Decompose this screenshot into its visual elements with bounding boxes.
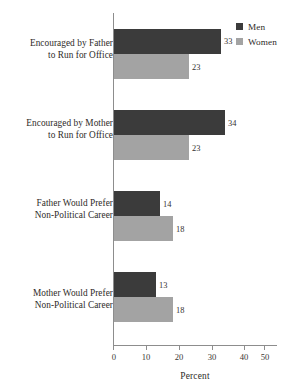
x-tick-40 (244, 346, 245, 350)
category-label-2-line1: Father Would Prefer (37, 198, 113, 208)
category-label-1: Encouraged by Mother to Run for Office (0, 118, 113, 141)
category-label-3: Mother Would Prefer Non-Political Career (0, 288, 113, 311)
bar-chart: Encouraged by Father to Run for Office E… (0, 0, 299, 390)
bar-value-men-2: 14 (163, 200, 171, 209)
x-axis-title: Percent (113, 371, 277, 381)
x-tick-10 (146, 346, 147, 350)
bar-value-women-3: 18 (176, 306, 184, 315)
x-tick-label-30: 30 (208, 352, 217, 362)
legend-item-men: Men (236, 20, 277, 33)
category-label-3-line1: Mother Would Prefer (33, 288, 113, 298)
x-axis-line (113, 345, 277, 346)
bar-value-men-3: 13 (159, 281, 167, 290)
x-tick-50 (264, 346, 265, 350)
bar-value-men-0: 33 (224, 37, 232, 46)
bar-women-0 (114, 54, 189, 79)
bar-value-men-1: 34 (228, 119, 236, 128)
bar-men-2 (114, 191, 160, 216)
legend-swatch-men-icon (236, 23, 243, 30)
category-label-2: Father Would Prefer Non-Political Career (0, 198, 113, 221)
bar-men-3 (114, 272, 156, 297)
category-label-0: Encouraged by Father to Run for Office (0, 38, 113, 61)
bar-men-1 (114, 110, 225, 135)
bar-value-women-0: 23 (192, 63, 200, 72)
x-tick-30 (212, 346, 213, 350)
category-label-2-line2: Non-Political Career (0, 210, 113, 222)
legend-item-women: Women (236, 35, 277, 48)
bar-men-0 (114, 29, 221, 54)
bar-women-1 (114, 135, 189, 160)
category-label-3-line2: Non-Political Career (0, 300, 113, 312)
category-label-1-line1: Encouraged by Mother (26, 118, 113, 128)
legend-swatch-women-icon (236, 38, 243, 45)
x-tick-label-50: 50 (261, 352, 270, 362)
x-tick-20 (179, 346, 180, 350)
y-axis-line (113, 13, 114, 346)
x-tick-label-0: 0 (112, 352, 116, 362)
x-tick-label-40: 40 (240, 352, 249, 362)
category-label-0-line2: to Run for Office (0, 50, 113, 62)
legend: Men Women (236, 20, 277, 50)
legend-label-women: Women (248, 37, 277, 47)
x-tick-0 (113, 346, 114, 350)
bar-women-2 (114, 216, 173, 241)
category-label-1-line2: to Run for Office (0, 130, 113, 142)
legend-label-men: Men (248, 22, 265, 32)
x-tick-label-20: 20 (175, 352, 184, 362)
bar-value-women-1: 23 (192, 144, 200, 153)
category-label-0-line1: Encouraged by Father (30, 38, 113, 48)
bar-value-women-2: 18 (176, 225, 184, 234)
bar-women-3 (114, 297, 173, 322)
x-tick-label-10: 10 (142, 352, 151, 362)
